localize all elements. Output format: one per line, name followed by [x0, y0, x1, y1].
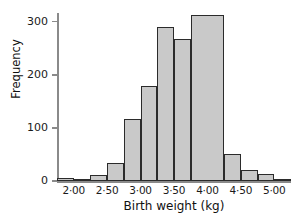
y-tick-label: 100 [0, 122, 48, 133]
histogram-bar [90, 175, 107, 181]
y-axis-title: Frequency [9, 17, 23, 121]
x-tick-label: 5·00 [263, 184, 286, 196]
y-tick-label: 0 [0, 175, 48, 186]
histogram-bar [157, 27, 174, 181]
x-axis-title: Birth weight (kg) [57, 199, 291, 213]
histogram-bar [174, 39, 191, 181]
x-tick-label: 4·00 [196, 184, 219, 196]
histogram-bar [124, 119, 141, 181]
histogram-bar [241, 170, 258, 181]
histogram-bar [107, 163, 124, 181]
histogram-bar [258, 174, 275, 181]
y-tick-label: 200 [0, 69, 48, 80]
histogram-bar [191, 15, 224, 181]
y-tick-label: 300 [0, 16, 48, 27]
histogram-figure: 0100200300 2·002·503·003·504·004·505·00 … [0, 0, 296, 217]
x-tick-label: 2·00 [62, 184, 85, 196]
x-tick-label: 2·50 [96, 184, 119, 196]
histogram-bar [57, 178, 74, 181]
histogram-bar [274, 179, 291, 181]
x-tick-label: 4·50 [230, 184, 253, 196]
histogram-bar [74, 179, 91, 181]
x-tick-label: 3·00 [129, 184, 152, 196]
x-tick-label: 3·50 [163, 184, 186, 196]
bars-group [57, 0, 291, 182]
histogram-bar [141, 86, 158, 181]
histogram-bar [224, 154, 241, 181]
